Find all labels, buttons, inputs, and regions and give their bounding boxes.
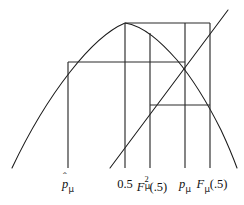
cobweb-diagram-figure: p ˆ μ 0.5 F2μ(.5) pμ Fμ(.5) bbox=[0, 0, 244, 205]
plot-area bbox=[0, 0, 244, 205]
